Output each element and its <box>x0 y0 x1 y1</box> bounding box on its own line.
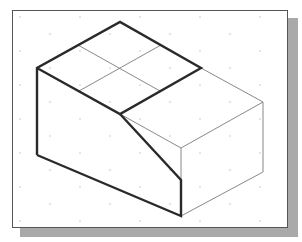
grid-dots <box>19 16 261 222</box>
thick-lines <box>37 22 201 216</box>
isometric-drawing: (function(){ const g = document.getEleme… <box>0 0 302 242</box>
thin-lines <box>78 45 263 216</box>
